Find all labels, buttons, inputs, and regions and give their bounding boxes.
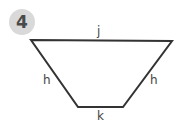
label-left-side: h (43, 74, 51, 86)
trapezoid-diagram (0, 0, 178, 129)
label-right-side: h (150, 74, 158, 86)
label-bottom-side: k (97, 110, 104, 122)
label-top-side: j (97, 25, 100, 37)
